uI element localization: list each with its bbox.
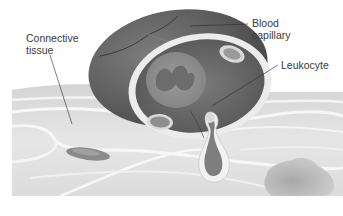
label-connective-tissue: Connective tissue: [26, 32, 79, 56]
capillary-illustration: Connective tissue Blood capillary Leukoc…: [0, 0, 343, 216]
label-blood-capillary: Blood capillary: [252, 17, 291, 41]
label-leukocyte: Leukocyte: [281, 59, 329, 71]
